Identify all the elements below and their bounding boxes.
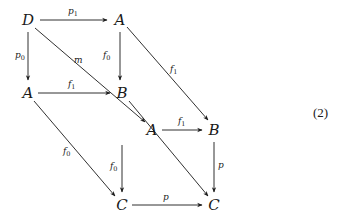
svg-text:p1: p1 <box>68 6 78 18</box>
svg-text:f0: f0 <box>102 50 110 62</box>
equation-number: (2) <box>313 105 328 121</box>
node-a-left: A <box>21 84 34 102</box>
svg-text:f0: f0 <box>62 146 70 158</box>
node-a-top: A <box>113 11 126 29</box>
svg-text:m: m <box>74 55 83 65</box>
svg-text:p: p <box>163 192 169 202</box>
svg-text:f1: f1 <box>177 116 185 128</box>
node-b-right: B <box>207 121 219 139</box>
edge-a-middle-c-bottom: f0 <box>109 145 122 192</box>
edge-b-right-c-right: p <box>214 142 224 192</box>
edge-a-top-b-center: f0 <box>102 32 120 80</box>
edge-c-bottom-c-right: p <box>132 192 202 205</box>
svg-text:f1: f1 <box>169 64 177 76</box>
edge-a-left-b-center: f1 <box>38 79 110 93</box>
edge-a-left-c-bottom: f0 <box>34 101 115 196</box>
edge-d-a-middle: m <box>35 28 145 122</box>
svg-text:p: p <box>218 160 224 170</box>
svg-text:p0: p0 <box>15 50 25 62</box>
svg-text:f1: f1 <box>67 79 75 91</box>
edge-d-a-left: p0 <box>15 32 28 80</box>
edge-a-top-b-right: f1 <box>127 27 208 120</box>
node-c-bottom: C <box>116 196 128 214</box>
commutative-diagram: p1 p0 f0 f1 f1 m f0 f1 f0 p p <box>0 0 347 220</box>
svg-text:f0: f0 <box>109 161 117 173</box>
node-b-center: B <box>115 84 127 102</box>
edge-d-a-top: p1 <box>40 6 107 20</box>
node-a-middle: A <box>145 121 158 139</box>
edge-b-center-c-right <box>129 101 208 196</box>
node-d: D <box>21 11 34 29</box>
edge-a-middle-b-right: f1 <box>162 116 202 130</box>
node-c-right: C <box>208 196 220 214</box>
